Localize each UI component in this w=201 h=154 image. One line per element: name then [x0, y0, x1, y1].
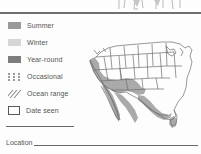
location-field[interactable]: Location — [6, 139, 198, 147]
notes-write-in-rule[interactable] — [6, 126, 74, 127]
winter-swatch-icon — [8, 39, 21, 46]
occasional-dots-swatch-icon — [8, 73, 21, 80]
location-label: Location — [6, 139, 32, 147]
legend-item-label: Date seen — [26, 107, 59, 115]
range-map-legend: Summer Winter Year-round Occasional Ocea… — [8, 17, 86, 119]
legend-item-label: Winter — [27, 39, 48, 47]
header-divider-rule — [0, 12, 201, 14]
ocean-range-hatch-swatch-icon — [8, 90, 21, 98]
range-map — [86, 16, 198, 138]
legend-item-occasional: Occasional — [8, 68, 86, 85]
summer-swatch-icon — [8, 22, 21, 29]
legend-item-winter: Winter — [8, 34, 86, 51]
date-seen-box-swatch-icon — [8, 106, 20, 115]
legend-item-summer: Summer — [8, 17, 86, 34]
legend-item-label: Ocean range — [27, 90, 69, 98]
location-write-in-rule[interactable] — [34, 145, 198, 146]
legend-item-label: Occasional — [27, 73, 63, 81]
field-guide-page: Summer Winter Year-round Occasional Ocea… — [0, 0, 201, 154]
legend-item-label: Summer — [27, 22, 54, 30]
legend-item-date-seen: Date seen — [8, 102, 86, 119]
cropped-illustration-strip — [0, 0, 201, 11]
legend-item-ocean-range: Ocean range — [8, 85, 86, 102]
legend-item-year-round: Year-round — [8, 51, 86, 68]
legend-item-label: Year-round — [27, 56, 62, 64]
year-round-swatch-icon — [8, 56, 21, 63]
